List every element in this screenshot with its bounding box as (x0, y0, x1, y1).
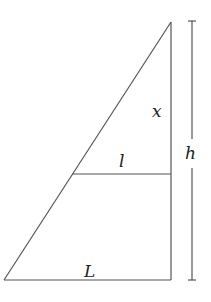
triangle-diagram: x l L h (0, 0, 211, 302)
hypotenuse-line (4, 22, 171, 280)
label-h: h (185, 143, 196, 163)
label-x: x (152, 101, 162, 121)
label-l: l (119, 151, 124, 171)
label-L: L (83, 261, 95, 281)
